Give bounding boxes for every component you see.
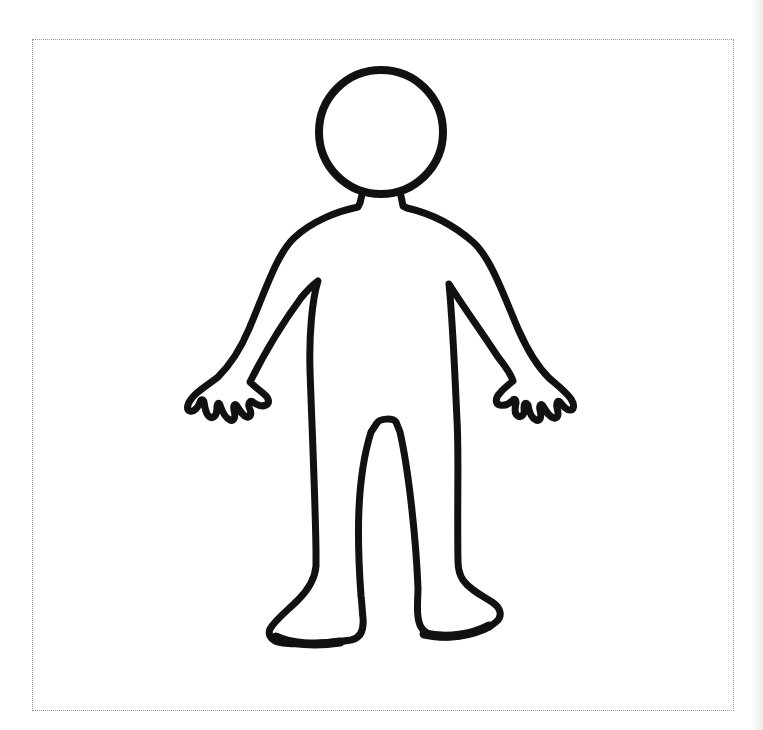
human-body-outline-figure <box>0 0 763 730</box>
left-foot-sole-stroke <box>276 637 340 644</box>
right-foot-sole-stroke <box>424 626 489 636</box>
worksheet-page <box>0 0 763 730</box>
body-outline-svg <box>0 0 763 730</box>
figure-head <box>319 70 443 194</box>
figure-body-outline <box>188 182 574 644</box>
